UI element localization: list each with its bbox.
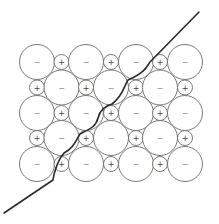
minus-sign: −: [108, 134, 115, 143]
minus-sign: −: [182, 160, 189, 169]
plus-sign: +: [108, 160, 115, 169]
lattice-canvas: −+−+−+−+−+−+−+−+−+−+−+−+−+−+−+−+−+−: [0, 0, 219, 224]
lattice-diagram: −+−+−+−+−+−+−+−+−+−+−+−+−+−+−+−+−+−: [0, 0, 219, 224]
minus-sign: −: [83, 160, 90, 169]
minus-sign: −: [182, 58, 189, 67]
plus-sign: +: [157, 58, 164, 67]
minus-sign: −: [83, 58, 90, 67]
plus-sign: +: [133, 134, 140, 143]
minus-sign: −: [108, 84, 115, 93]
minus-sign: −: [157, 134, 164, 143]
minus-sign: −: [133, 109, 140, 118]
plus-sign: +: [157, 160, 164, 169]
plus-sign: +: [83, 134, 90, 143]
minus-sign: −: [182, 109, 189, 118]
minus-sign: −: [83, 109, 90, 118]
plus-sign: +: [58, 109, 65, 118]
minus-sign: −: [34, 160, 41, 169]
plus-sign: +: [108, 109, 115, 118]
plus-sign: +: [34, 134, 41, 143]
minus-sign: −: [34, 109, 41, 118]
minus-sign: −: [133, 160, 140, 169]
plus-sign: +: [182, 84, 189, 93]
plus-sign: +: [157, 109, 164, 118]
minus-sign: −: [34, 58, 41, 67]
plus-sign: +: [182, 134, 189, 143]
plus-sign: +: [108, 58, 115, 67]
minus-sign: −: [157, 84, 164, 93]
ion-lattice: −+−+−+−+−+−+−+−+−+−+−+−+−+−+−+−+−+−: [20, 45, 203, 182]
plus-sign: +: [83, 84, 90, 93]
plus-sign: +: [133, 84, 140, 93]
plus-sign: +: [58, 58, 65, 67]
minus-sign: −: [133, 58, 140, 67]
minus-sign: −: [58, 84, 65, 93]
plus-sign: +: [34, 84, 41, 93]
minus-sign: −: [58, 134, 65, 143]
